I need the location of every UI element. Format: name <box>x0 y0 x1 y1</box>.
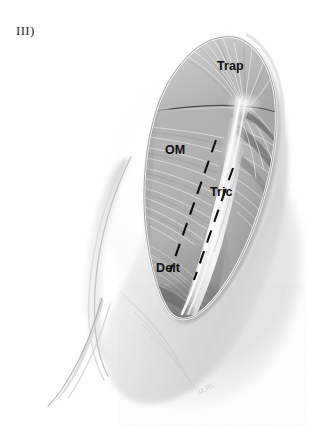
surgical-illustration-figure: III) Trap OM Tric Delt a.m. <box>0 0 332 447</box>
figure-number-label: III) <box>16 23 35 39</box>
illustration-canvas <box>0 0 332 447</box>
anatomy-label-trapezius: Trap <box>217 59 244 73</box>
anatomy-label-triceps: Tric <box>210 185 233 199</box>
anatomy-label-om: OM <box>165 143 185 157</box>
anatomy-label-deltoid: Delt <box>156 261 180 275</box>
